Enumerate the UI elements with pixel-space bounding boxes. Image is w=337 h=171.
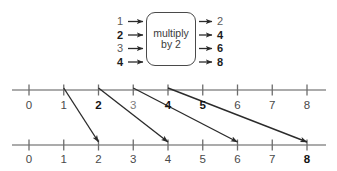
output-tick-label-1: 1 — [56, 153, 72, 165]
input-tick-label-2: 2 — [91, 99, 107, 111]
output-tick-label-7: 7 — [264, 153, 280, 165]
output-number-line-axis — [12, 140, 326, 151]
output-tick-label-5: 5 — [195, 153, 211, 165]
output-tick-label-0: 0 — [21, 153, 37, 165]
mapping-arrow-3-to-6 — [133, 88, 237, 142]
input-tick-label-1: 1 — [56, 99, 72, 111]
number-lines-graphic — [0, 0, 337, 171]
mapping-arrow-group — [64, 88, 307, 142]
input-tick-label-4: 4 — [160, 99, 176, 111]
output-tick-label-4: 4 — [160, 153, 176, 165]
input-tick-label-0: 0 — [21, 99, 37, 111]
output-tick-label-6: 6 — [230, 153, 246, 165]
input-tick-label-3: 3 — [125, 99, 141, 111]
input-tick-label-5: 5 — [195, 99, 211, 111]
output-tick-label-2: 2 — [91, 153, 107, 165]
input-tick-label-6: 6 — [230, 99, 246, 111]
mapping-arrow-1-to-2 — [64, 88, 99, 142]
mapping-arrow-4-to-8 — [168, 88, 307, 142]
output-tick-label-3: 3 — [125, 153, 141, 165]
diagram-canvas: multiply by 2 1 2 3 4 2 4 6 8 — [0, 0, 337, 171]
input-tick-label-8: 8 — [299, 99, 315, 111]
output-tick-label-8: 8 — [299, 153, 315, 165]
input-tick-label-7: 7 — [264, 99, 280, 111]
mapping-arrow-2-to-4 — [99, 88, 169, 142]
input-number-line-axis — [12, 85, 326, 96]
